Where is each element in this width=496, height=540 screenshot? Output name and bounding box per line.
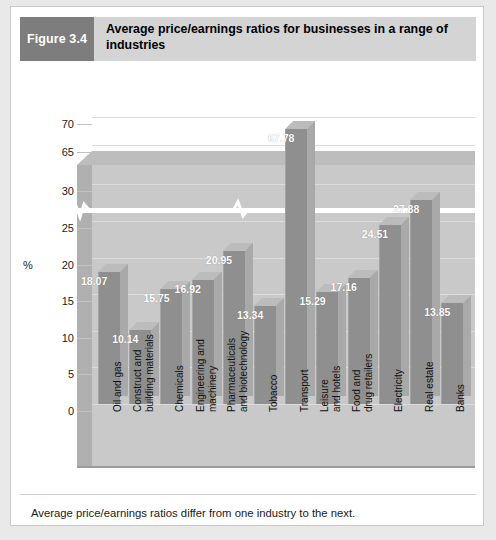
y-axis-tick-label: 5 bbox=[48, 368, 74, 380]
grid-line bbox=[92, 145, 475, 146]
x-axis-category-label-line: Real estate bbox=[424, 361, 436, 412]
x-axis-category-label-line: and hotels bbox=[331, 366, 343, 412]
bar bbox=[285, 121, 307, 404]
x-axis-category-label: Real estate bbox=[424, 361, 436, 412]
figure-caption: Average price/earnings ratios differ fro… bbox=[31, 507, 469, 519]
x-axis-category-label-line: Oil and gas bbox=[112, 361, 124, 412]
x-axis-category-label-line: Banks bbox=[455, 384, 467, 412]
axis-break-zigzag-left-icon bbox=[70, 197, 104, 225]
bar-side-face bbox=[307, 121, 315, 396]
bar-value-label: 13.85 bbox=[424, 306, 450, 318]
y-axis-tick-label: 65 bbox=[48, 146, 74, 158]
plot-panel-top-face bbox=[92, 151, 475, 165]
bar-value-label: 17.16 bbox=[331, 281, 357, 293]
x-axis-category-label: Chemicals bbox=[174, 365, 186, 412]
x-axis-category-label: Leisureand hotels bbox=[319, 366, 342, 412]
x-axis-category-label-line: machinery bbox=[206, 339, 218, 412]
x-axis-category-label-line: Construct and bbox=[132, 334, 144, 412]
y-axis-tick-label: 0 bbox=[48, 405, 74, 417]
grid-line bbox=[92, 117, 475, 118]
grid-line-side bbox=[77, 152, 92, 153]
x-axis-category-label-line: Electricity bbox=[393, 369, 405, 412]
figure-number-label: Figure 3.4 bbox=[27, 32, 87, 46]
y-axis-tick-label: 25 bbox=[48, 222, 74, 234]
chart-area: 0510152025306570 % 18.0710.1415.7516.922… bbox=[20, 69, 476, 493]
x-axis-category-label: Transport bbox=[299, 370, 311, 412]
grid-line bbox=[92, 184, 475, 185]
x-axis-category-label-line: building materials bbox=[144, 334, 156, 412]
bar-value-label: 13.34 bbox=[237, 309, 263, 321]
x-axis-category-label: Engineering andmachinery bbox=[195, 339, 218, 412]
x-axis-category-label: Tobacco bbox=[268, 375, 280, 412]
grid-line-side bbox=[77, 411, 92, 412]
bar-value-label: 16.92 bbox=[175, 283, 201, 295]
x-axis-category-label-line: Leisure bbox=[319, 366, 331, 412]
bar-side-face bbox=[463, 295, 471, 396]
bar-value-label: 15.75 bbox=[143, 292, 169, 304]
x-axis-category-label: Construct andbuilding materials bbox=[132, 334, 155, 412]
page-background: Figure 3.4 Average price/earnings ratios… bbox=[0, 0, 496, 540]
x-axis-category-label: Electricity bbox=[393, 369, 405, 412]
grid-line-side bbox=[77, 301, 92, 302]
y-axis-tick-label: 30 bbox=[48, 185, 74, 197]
y-axis-tick-label: 70 bbox=[48, 118, 74, 130]
x-axis-category-label-line: drug retailers bbox=[362, 354, 374, 412]
bar-value-label: 24.51 bbox=[362, 228, 388, 240]
x-axis-category-label-line: Chemicals bbox=[174, 365, 186, 412]
figure-header: Figure 3.4 Average price/earnings ratios… bbox=[20, 17, 476, 61]
figure-title: Average price/earnings ratios for busine… bbox=[106, 22, 470, 53]
bar-value-label: 20.95 bbox=[206, 254, 232, 266]
grid-line-side bbox=[77, 338, 92, 339]
x-axis-category-label-line: Tobacco bbox=[268, 375, 280, 412]
grid-line-side bbox=[77, 124, 92, 125]
figure-card: Figure 3.4 Average price/earnings ratios… bbox=[10, 6, 484, 526]
x-axis-category-label-line: and biotechnology bbox=[237, 331, 249, 412]
x-axis-category-label: Oil and gas bbox=[112, 361, 124, 412]
caption-divider bbox=[20, 494, 476, 495]
grid-line-side bbox=[77, 228, 92, 229]
bar-value-label: 18.07 bbox=[81, 275, 107, 287]
grid-line-side bbox=[77, 191, 92, 192]
bar-front-face bbox=[285, 129, 307, 404]
grid-line-side bbox=[77, 374, 92, 375]
x-axis-category-label: Banks bbox=[455, 384, 467, 412]
x-axis-category-label: Pharmaceuticalsand biotechnology bbox=[226, 331, 249, 412]
bar-value-label: 67.78 bbox=[268, 132, 294, 144]
plot-panel-floor bbox=[77, 466, 475, 468]
y-axis-tick-label: 15 bbox=[48, 295, 74, 307]
x-axis-category-label-line: Pharmaceuticals bbox=[226, 331, 238, 412]
x-axis-category-label-line: Transport bbox=[299, 370, 311, 412]
x-axis-category-label-line: Engineering and bbox=[195, 339, 207, 412]
y-axis-tick-label: 20 bbox=[48, 259, 74, 271]
axis-break-zigzag-right-icon bbox=[224, 197, 254, 225]
y-axis-tick-label: 10 bbox=[48, 332, 74, 344]
x-axis-category-label-line: Food and bbox=[351, 354, 363, 412]
plot-panel-corner-face bbox=[77, 151, 92, 165]
x-axis-category-label: Food anddrug retailers bbox=[351, 354, 374, 412]
bar-value-label: 15.29 bbox=[299, 295, 325, 307]
y-axis-tick-labels: 0510152025306570 bbox=[40, 69, 74, 493]
grid-line-side bbox=[77, 265, 92, 266]
figure-number-box: Figure 3.4 bbox=[20, 17, 94, 61]
bar-value-label: 27.88 bbox=[393, 203, 419, 215]
y-axis-unit-label: % bbox=[23, 259, 33, 271]
